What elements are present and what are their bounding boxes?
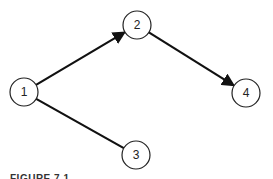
edge-1-2 [36, 33, 124, 85]
nodes: 1234 [10, 11, 260, 169]
node-3: 3 [122, 141, 150, 169]
node-2: 2 [123, 11, 151, 39]
edges [36, 32, 233, 148]
node-4: 4 [232, 79, 260, 107]
node-label: 2 [134, 18, 141, 32]
figure-caption: FIGURE 7.1 [10, 173, 69, 179]
network-diagram: 1234 [0, 0, 273, 179]
node-1: 1 [10, 78, 38, 106]
edge-2-4 [149, 32, 233, 85]
edge-1-3 [36, 99, 124, 148]
node-label: 3 [133, 148, 140, 162]
node-label: 1 [21, 85, 28, 99]
node-label: 4 [243, 86, 250, 100]
